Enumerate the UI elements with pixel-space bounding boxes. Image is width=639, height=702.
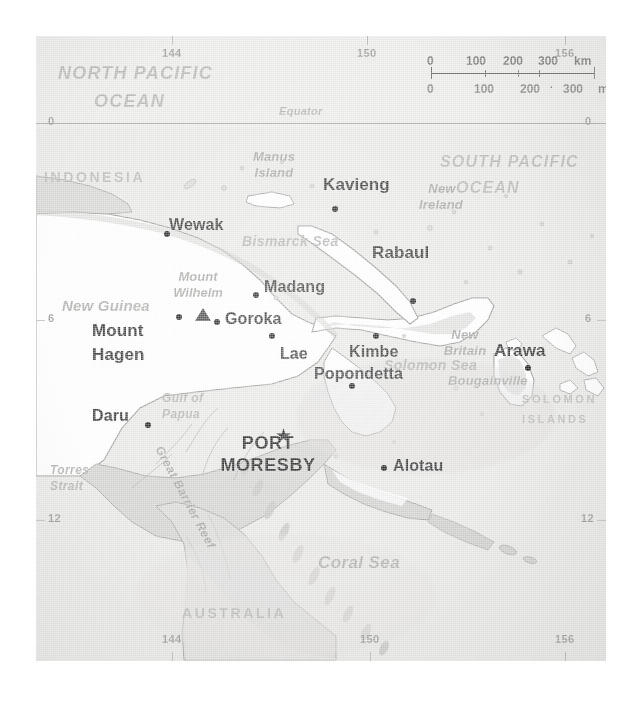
scale-label-mi-0: 0: [427, 82, 434, 96]
city-label-madang[interactable]: Madang: [264, 279, 325, 296]
map-container: 144 150 156 144 150 156 0 6 12 0 6 12 Eq…: [0, 0, 639, 702]
scale-bar-axis: [431, 73, 594, 74]
city-label-popondetta[interactable]: Popondetta: [314, 366, 403, 383]
scale-bar: 0 100 200 300 km 0 100 200 300 mi ·: [398, 51, 606, 109]
scale-tick-200km: [539, 70, 540, 77]
city-label-wewak[interactable]: Wewak: [169, 217, 223, 234]
capital-label-line2[interactable]: MORESBY: [196, 456, 340, 474]
city-label-mount-hagen-line1[interactable]: Mount: [92, 322, 143, 340]
city-label-mount-hagen-line2[interactable]: Hagen: [92, 346, 144, 364]
map-frame: 144 150 156 144 150 156 0 6 12 0 6 12 Eq…: [36, 36, 606, 661]
scale-mid-dot: ·: [550, 82, 553, 93]
city-label-rabaul[interactable]: Rabaul: [372, 244, 429, 262]
scale-tick-100mi: [518, 70, 519, 77]
scale-label-km-300: 300: [538, 54, 558, 68]
city-label-goroka[interactable]: Goroka: [225, 311, 282, 328]
scale-tick-start: [431, 67, 432, 79]
city-label-kavieng[interactable]: Kavieng: [323, 176, 390, 194]
scale-tick-end: [594, 67, 595, 79]
city-label-alotau[interactable]: Alotau: [393, 458, 443, 475]
scale-label-mi-100: 100: [474, 82, 494, 96]
city-label-lae[interactable]: Lae: [280, 346, 308, 363]
scale-label-mi-200: 200: [520, 82, 540, 96]
scale-unit-mi: mi: [598, 82, 606, 96]
scale-label-km-200: 200: [503, 54, 523, 68]
city-label-daru[interactable]: Daru: [92, 408, 129, 425]
city-label-kimbe[interactable]: Kimbe: [349, 344, 398, 361]
scale-unit-km: km: [574, 54, 591, 68]
city-label-arawa[interactable]: Arawa: [494, 342, 546, 360]
scale-tick-100km: [485, 70, 486, 77]
scale-label-mi-300: 300: [563, 82, 583, 96]
capital-label-line1[interactable]: PORT: [214, 434, 322, 452]
scale-label-km-100: 100: [466, 54, 486, 68]
scale-label-km-0: 0: [427, 54, 434, 68]
city-labels: Wewak Madang Goroka Mount Hagen Lae Daru…: [36, 36, 606, 661]
